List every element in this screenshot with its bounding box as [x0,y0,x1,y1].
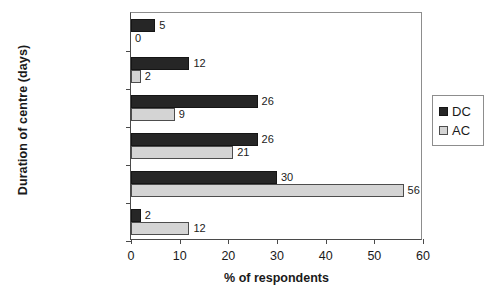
bar-value-label: 2 [145,208,151,222]
y-axis-title: Duration of centre (days) [16,5,30,235]
bar-row: 12 [131,222,421,235]
bar-group: 122 [131,51,421,83]
x-axis-tick-label: 30 [257,249,297,263]
x-axis-tick [228,239,229,244]
legend-swatch-ac-icon [439,126,448,135]
bar-ac[interactable] [131,184,404,197]
legend-item-ac[interactable]: AC [439,121,483,140]
bar-ac[interactable] [131,222,189,235]
bar-value-label: 0 [135,31,141,45]
legend-swatch-dc-icon [439,107,448,116]
bar-row: 5 [131,19,421,32]
bar-ac[interactable] [131,108,175,121]
bar-row: 56 [131,184,421,197]
bar-row: 2 [131,70,421,83]
x-axis-tick-label: 50 [354,249,394,263]
bar-group: 2621 [131,127,421,159]
bar-group: 269 [131,89,421,121]
bar-dc[interactable] [131,171,277,184]
bar-row: 21 [131,146,421,159]
bar-dc[interactable] [131,95,258,108]
x-axis-title: % of respondents [130,271,423,285]
x-axis-tick [423,239,424,244]
x-axis-tick [180,239,181,244]
x-axis-tick [277,239,278,244]
bar-dc[interactable] [131,57,189,70]
legend-label-ac: AC [452,124,470,137]
x-axis-tick [374,239,375,244]
chart-figure: Duration of centre (days) 50Don't know12… [0,0,501,298]
chart-legend: DC AC [432,95,484,146]
x-axis-tick-label: 20 [208,249,248,263]
plot-area: 50Don't know122More than 22691½–226211–1… [130,12,422,240]
legend-item-dc[interactable]: DC [439,102,483,121]
bar-row: 0 [131,32,421,45]
bar-dc[interactable] [131,209,141,222]
x-axis-tick-label: 60 [403,249,443,263]
bar-row: 9 [131,108,421,121]
bar-value-label: 26 [262,94,274,108]
bar-ac[interactable] [131,146,233,159]
bar-value-label: 21 [237,145,249,159]
x-axis-tick-label: 0 [111,249,151,263]
bar-row: 2 [131,209,421,222]
x-axis-tick [131,239,132,244]
x-axis-tick-label: 40 [306,249,346,263]
bar-value-label: 30 [281,170,293,184]
legend-label-dc: DC [452,105,471,118]
bar-row: 26 [131,133,421,146]
bar-row: 12 [131,57,421,70]
bar-value-label: 5 [159,18,165,32]
bar-ac[interactable] [131,70,141,83]
bar-value-label: 9 [179,107,185,121]
bar-group: 50 [131,13,421,45]
x-axis-tick [326,239,327,244]
bar-value-label: 12 [193,221,205,235]
bar-value-label: 56 [408,183,420,197]
bar-row: 26 [131,95,421,108]
bar-group: 3056 [131,165,421,197]
bar-row: 30 [131,171,421,184]
bar-value-label: 2 [145,69,151,83]
bar-value-label: 26 [262,132,274,146]
bar-value-label: 12 [193,56,205,70]
bar-group: 212 [131,203,421,235]
x-axis-tick-label: 10 [160,249,200,263]
